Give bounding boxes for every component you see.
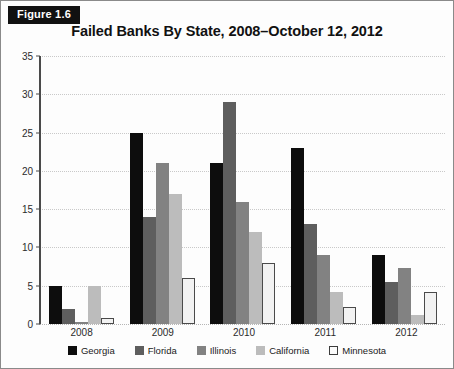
bar-california-2008: [88, 286, 101, 324]
bar-georgia-2008: [49, 286, 62, 324]
legend-swatch-florida: [135, 346, 144, 355]
legend-label: Georgia: [81, 345, 115, 356]
bar-georgia-2009: [130, 133, 143, 324]
x-axis-tick-label: 2012: [366, 327, 447, 338]
x-axis-tick-labels: 20082009201020112012: [41, 327, 447, 338]
bar-minnesota-2009: [182, 278, 195, 324]
bar-group-2008: [41, 56, 122, 324]
bar-minnesota-2008: [101, 318, 114, 324]
bar-illinois-2008: [75, 322, 88, 324]
y-axis-tick-label: 15: [22, 204, 33, 215]
figure-number-badge: Figure 1.6: [8, 6, 80, 24]
x-axis-tick-label: 2008: [41, 327, 122, 338]
bar-group-2011: [283, 56, 364, 324]
y-axis-tick-label: 5: [27, 280, 33, 291]
bar-florida-2011: [304, 224, 317, 324]
bar-california-2012: [411, 315, 424, 324]
legend-item-georgia[interactable]: Georgia: [68, 345, 115, 356]
y-axis-tick-label: 20: [22, 165, 33, 176]
bar-florida-2010: [223, 102, 236, 324]
bar-florida-2009: [143, 217, 156, 324]
bar-group-2009: [122, 56, 203, 324]
chart-legend: GeorgiaFloridaIllinoisCaliforniaMinnesot…: [1, 345, 453, 356]
bar-georgia-2010: [210, 163, 223, 324]
bar-california-2009: [169, 194, 182, 324]
bar-georgia-2011: [291, 148, 304, 324]
bar-florida-2008: [62, 309, 75, 324]
figure-container: Figure 1.6 Failed Banks By State, 2008–O…: [0, 0, 454, 369]
legend-label: California: [269, 345, 309, 356]
bar-minnesota-2011: [343, 307, 356, 324]
bar-california-2011: [330, 292, 343, 324]
bar-illinois-2012: [398, 268, 411, 324]
bar-group-2010: [203, 56, 284, 324]
legend-label: Illinois: [210, 345, 236, 356]
bar-florida-2012: [385, 282, 398, 324]
y-axis-tick-label: 35: [22, 51, 33, 62]
plot-area: 05101520253035: [39, 56, 445, 324]
legend-swatch-illinois: [197, 346, 206, 355]
bar-groups: [41, 56, 445, 324]
legend-item-california[interactable]: California: [256, 345, 309, 356]
gridline: [39, 324, 445, 325]
bar-california-2010: [249, 232, 262, 324]
legend-label: Florida: [148, 345, 177, 356]
legend-swatch-minnesota: [329, 346, 338, 355]
bar-illinois-2011: [317, 255, 330, 324]
bar-minnesota-2012: [424, 292, 437, 324]
y-axis-tick-label: 25: [22, 127, 33, 138]
y-axis-tick-label: 30: [22, 89, 33, 100]
y-axis-tick-label: 10: [22, 242, 33, 253]
chart-title: Failed Banks By State, 2008–October 12, …: [1, 23, 453, 39]
legend-item-florida[interactable]: Florida: [135, 345, 177, 356]
x-axis-tick-label: 2011: [285, 327, 366, 338]
legend-item-illinois[interactable]: Illinois: [197, 345, 236, 356]
legend-label: Minnesota: [342, 345, 386, 356]
bar-georgia-2012: [372, 255, 385, 324]
y-axis-tick-label: 0: [27, 319, 33, 330]
bar-illinois-2009: [156, 163, 169, 324]
legend-swatch-california: [256, 346, 265, 355]
bar-group-2012: [364, 56, 445, 324]
bar-minnesota-2010: [262, 263, 275, 324]
bar-illinois-2010: [236, 202, 249, 325]
x-axis-tick-label: 2009: [122, 327, 203, 338]
legend-item-minnesota[interactable]: Minnesota: [329, 345, 386, 356]
x-axis-tick-label: 2010: [203, 327, 284, 338]
legend-swatch-georgia: [68, 346, 77, 355]
